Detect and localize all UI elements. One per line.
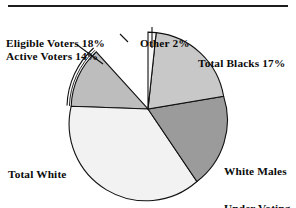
label-white-males-under-voting-age: White Males Under Voting Age 23% — [224, 140, 291, 208]
label-active-voters: Active Voters 14% — [6, 25, 98, 87]
label-total-white-females: Total White Females 40% — [8, 143, 75, 208]
pie-chart-figure: Eligible Voters 18% Active Voters 14% Ot… — [0, 0, 296, 208]
label-total-blacks: Total Blacks 17% — [198, 32, 285, 94]
eligible-voters-leader-line — [120, 34, 128, 42]
label-total-white-females-line1: Total White — [8, 168, 75, 180]
label-white-males-line2: Under Voting — [224, 202, 291, 208]
label-total-blacks-text: Total Blacks 17% — [198, 57, 285, 69]
label-active-voters-text: Active Voters 14% — [6, 50, 98, 62]
label-total-white-females-line2: Females 40% — [8, 205, 75, 208]
label-other-text: Other 2% — [140, 37, 190, 49]
label-other: Other 2% — [140, 12, 190, 74]
label-white-males-line1: White Males — [224, 165, 291, 177]
